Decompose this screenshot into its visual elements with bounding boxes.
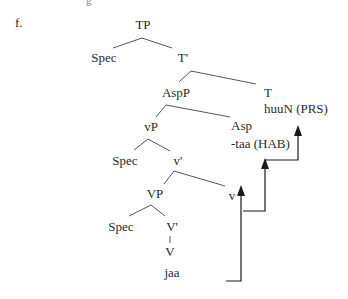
node-tp: TP bbox=[135, 18, 150, 32]
node-t-form: huuN (PRS) bbox=[264, 102, 328, 116]
node-asp-form: -taa (HAB) bbox=[231, 137, 290, 151]
node-v-form: jaa bbox=[164, 266, 179, 280]
node-asp-head: Asp bbox=[231, 119, 252, 133]
node-v-bar-small: v' bbox=[174, 154, 183, 168]
node-vp-big: VP bbox=[147, 187, 164, 201]
node-t-bar: T' bbox=[178, 51, 188, 65]
node-aspp: AspP bbox=[162, 86, 190, 100]
node-v-bar-big: V' bbox=[166, 220, 178, 234]
node-v-head-big: V bbox=[165, 245, 174, 259]
node-spec-tp: Spec bbox=[91, 51, 116, 65]
node-vp-small: vP bbox=[144, 120, 158, 134]
node-v-head-small: v bbox=[229, 189, 236, 203]
node-spec-vp-big: Spec bbox=[108, 220, 133, 234]
node-t-head: T bbox=[264, 86, 272, 100]
node-spec-vp-small: Spec bbox=[112, 154, 137, 168]
